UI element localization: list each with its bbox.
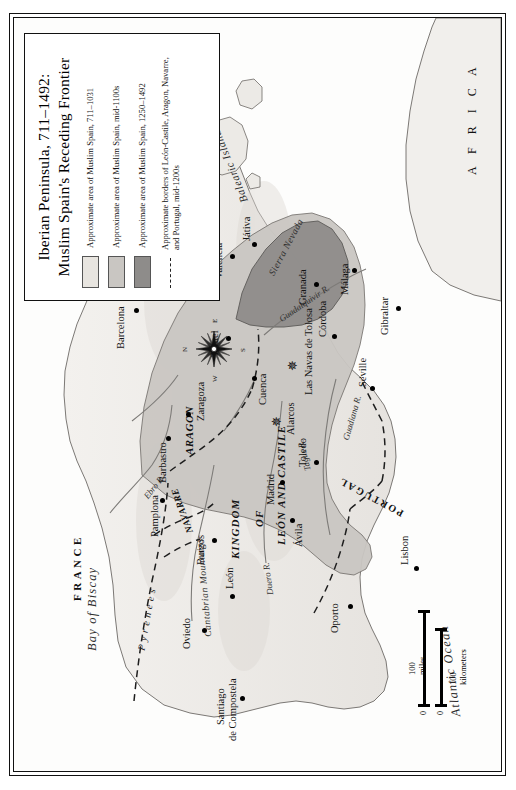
label-cuenca: Cuenca — [258, 374, 269, 406]
map-legend: Iberian Peninsula, 711–1492: Muslim Spai… — [24, 33, 220, 301]
scale-tick-end-miles — [418, 611, 430, 614]
label-alarcos: Alarcos — [286, 402, 297, 435]
legend-item-borders: Approximate borders of León-Castile, Ara… — [160, 46, 181, 288]
label-santiago-de-compostela-line2: de Compostela — [228, 678, 239, 741]
label-cordoba: Córdoba — [318, 301, 329, 337]
compass-north-label: N — [181, 347, 189, 352]
city-dot-burgos — [212, 538, 217, 543]
city-dot-pamplona — [160, 498, 165, 503]
city-dot-valencia — [230, 254, 235, 259]
label-leon: León — [225, 567, 236, 589]
label-las-navas-de-tolosa: Las Navas de Tolosa — [304, 308, 315, 395]
city-dot-leon — [230, 594, 235, 599]
city-dot-gibraltar — [396, 306, 401, 311]
label-bay-of-biscay: Bay of Biscay — [86, 567, 99, 651]
legend-label-borders: Approximate borders of León-Castile, Ara… — [160, 46, 181, 250]
legend-swatch-dark — [134, 256, 151, 288]
city-dot-granada — [314, 282, 319, 287]
city-dot-malaga — [352, 268, 357, 273]
compass-rose-icon — [190, 325, 238, 373]
label-barbastro: Barbastro — [158, 442, 169, 483]
compass-west-label: W — [211, 375, 219, 382]
legend-swatch-light — [82, 256, 99, 288]
legend-label-1250-1492: Approximate area of Muslim Spain, 1250–1… — [137, 83, 148, 248]
battle-star-alarcos: ✵ — [270, 416, 283, 427]
legend-title-line1: Iberian Peninsula, 711–1492: — [35, 46, 53, 288]
label-pamplona: Pamplona — [150, 495, 161, 537]
city-dot-barbastro — [166, 436, 171, 441]
label-oviedo: Oviedo — [182, 618, 193, 649]
label-zaragoza: Zaragoza — [196, 382, 207, 421]
map-viewport: Atlantic Ocean Bay of Biscay Mediterrane… — [14, 18, 501, 771]
scale-label-kilometers: 100 kilometers — [448, 649, 468, 685]
compass-south-label: S — [239, 348, 247, 352]
city-dot-toledo — [314, 460, 319, 465]
label-madrid: Madrid — [266, 474, 277, 505]
scale-tick-start-miles — [418, 705, 430, 708]
label-seville: Seville — [358, 358, 369, 387]
compass-east-label: E — [211, 319, 219, 323]
label-lisbon: Lisbon — [400, 536, 411, 565]
city-dot-madrid — [280, 480, 285, 485]
legend-dashed-line-icon — [170, 258, 171, 288]
city-dot-lisbon — [414, 566, 419, 571]
scale-label-miles: 100 miles — [407, 657, 427, 675]
city-dot-oviedo — [202, 628, 207, 633]
label-oporto: Oporto — [330, 603, 341, 633]
city-dot-cordoba — [332, 334, 337, 339]
legend-title-line2: Muslim Spain's Receding Frontier — [55, 46, 73, 288]
scale-bar-line-kilometers — [440, 629, 443, 707]
label-africa: A F R I C A — [466, 62, 478, 175]
battle-star-las-navas-de-tolosa: ✵ — [286, 360, 299, 371]
city-dot-seville — [370, 386, 375, 391]
scale-zero-kilometers: 0 — [436, 711, 445, 715]
compass-rose: N E S W — [190, 325, 238, 373]
legend-item-711-1031: Approximate area of Muslim Spain, 711–10… — [82, 46, 99, 288]
city-dot-oporto — [348, 604, 353, 609]
label-toledo: Toledo — [298, 438, 309, 467]
scale-tick-start-kilometers — [435, 705, 447, 708]
label-kingdom-of: OF — [254, 510, 265, 527]
label-barcelona: Barcelona — [116, 306, 127, 349]
legend-item-1250-1492: Approximate area of Muslim Spain, 1250–1… — [134, 46, 151, 288]
label-granada: Granada — [298, 269, 309, 305]
city-dot-barcelona — [134, 308, 139, 313]
scale-tick-end-kilometers — [435, 629, 447, 632]
city-dot-zaragoza — [186, 412, 191, 417]
label-france: FRANCE — [72, 534, 83, 601]
legend-label-mid-1100s: Approximate area of Muslim Spain, mid-11… — [111, 86, 122, 248]
city-dot-santiago-de-compostela — [240, 696, 245, 701]
scale-zero-miles: 0 — [419, 711, 428, 715]
label-malaga: Málaga — [340, 264, 351, 296]
city-dot-jativa — [252, 242, 257, 247]
legend-swatch-medium — [108, 256, 125, 288]
label-avila: Ávila — [294, 524, 305, 547]
label-burgos: Burgos — [196, 535, 207, 565]
city-dot-avila — [290, 518, 295, 523]
label-gibraltar: Gibraltar — [380, 297, 391, 335]
legend-label-711-1031: Approximate area of Muslim Spain, 711–10… — [85, 88, 96, 248]
label-kingdom: KINGDOM — [230, 499, 241, 559]
map-canvas: Atlantic Ocean Bay of Biscay Mediterrane… — [14, 18, 501, 771]
legend-item-mid-1100s: Approximate area of Muslim Spain, mid-11… — [108, 46, 125, 288]
map-page: Atlantic Ocean Bay of Biscay Mediterrane… — [0, 0, 516, 790]
label-jativa: Játiva — [242, 217, 253, 242]
label-santiago-de-compostela-line1: Santiago — [216, 688, 227, 725]
